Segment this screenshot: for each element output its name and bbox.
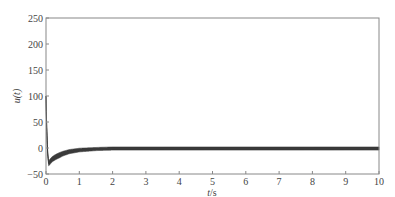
data-series-u	[46, 96, 379, 166]
x-tick-label: 9	[343, 176, 348, 187]
x-tick-label: 8	[310, 176, 315, 187]
y-axis-label: u(t)	[11, 88, 23, 103]
y-tick-label: 0	[38, 143, 43, 154]
x-tick-label: 1	[77, 176, 82, 187]
x-tick-label: 6	[243, 176, 248, 187]
chart: −50050100150200250 012345678910 t/s u(t)	[0, 0, 395, 197]
y-tick-label: 150	[28, 65, 43, 76]
x-tick-label: 0	[44, 176, 49, 187]
x-axis-label: t/s	[207, 187, 217, 197]
y-tick-label: 100	[28, 91, 43, 102]
x-tick-label: 2	[110, 176, 115, 187]
y-tick-label: −50	[27, 169, 43, 180]
x-tick-label: 4	[177, 176, 182, 187]
x-tick-label: 10	[374, 176, 384, 187]
y-tick-label: 200	[28, 39, 43, 50]
u-band	[46, 96, 379, 166]
x-tick-label: 3	[143, 176, 148, 187]
y-tick-label: 250	[28, 13, 43, 24]
x-tick-label: 7	[277, 176, 282, 187]
x-axis: 012345678910	[44, 171, 385, 187]
y-tick-label: 50	[33, 117, 43, 128]
x-tick-label: 5	[210, 176, 215, 187]
